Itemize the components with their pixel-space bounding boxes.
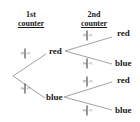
node-first-red: red (49, 46, 62, 56)
prob-red-red: 3 5 (82, 31, 93, 41)
header-second-counter: 2nd counter (77, 10, 111, 28)
header-first-counter: 1st counter (14, 10, 48, 28)
header-second-line1: 2nd (77, 10, 111, 19)
node-blue-blue: blue (115, 105, 132, 115)
header-first-line2: counter (14, 19, 48, 28)
header-second-line2: counter (77, 19, 111, 28)
prob-red-blue: 2 5 (82, 59, 93, 69)
node-red-blue: blue (115, 58, 132, 68)
node-red-red: red (117, 28, 130, 38)
prob-first-blue: 2 5 (20, 84, 31, 94)
prob-blue-blue: 2 5 (82, 106, 93, 116)
node-blue-red: red (117, 75, 130, 85)
header-first-line1: 1st (14, 10, 48, 19)
node-first-blue: blue (46, 92, 63, 102)
prob-first-red: 3 5 (20, 49, 31, 59)
prob-blue-red: 3 5 (82, 77, 93, 87)
